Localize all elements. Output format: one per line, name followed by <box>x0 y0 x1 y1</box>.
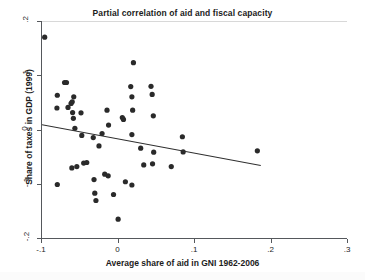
data-point <box>180 134 185 139</box>
data-point <box>71 94 76 99</box>
data-point <box>148 84 153 89</box>
y-axis-label: Share of taxes in GDP (1999) <box>24 42 34 212</box>
data-point <box>116 217 121 222</box>
y-tick-mark <box>37 130 41 131</box>
data-point <box>74 164 79 169</box>
y-tick-mark <box>37 184 41 185</box>
y-tick-label-text: -.2 <box>22 232 31 241</box>
data-point <box>151 113 156 118</box>
y-tick-mark <box>37 238 41 239</box>
x-tick-label: -.1 <box>36 245 45 254</box>
data-points-group <box>42 35 260 222</box>
regression-line <box>42 125 261 166</box>
y-tick-label: -.2 <box>22 232 31 241</box>
x-axis-label: Average share of aid in GNI 1962-2006 <box>0 258 365 268</box>
plot-area <box>41 21 347 238</box>
data-point <box>70 110 75 115</box>
data-point <box>138 146 143 151</box>
data-point <box>84 160 89 165</box>
y-tick-mark <box>37 75 41 76</box>
data-point <box>92 191 97 196</box>
data-point <box>131 60 136 65</box>
y-tick-label: .2 <box>22 15 29 24</box>
x-tick-label: .1 <box>191 245 198 254</box>
data-point <box>150 161 155 166</box>
data-point <box>129 132 134 137</box>
data-point <box>130 108 135 113</box>
data-point <box>128 84 133 89</box>
data-point <box>129 94 134 99</box>
data-point <box>106 122 111 127</box>
data-point <box>69 165 74 170</box>
data-point <box>150 92 155 97</box>
y-axis-line <box>41 21 42 239</box>
data-point <box>42 35 47 40</box>
scan-edge-strip <box>0 272 365 280</box>
data-point <box>64 80 69 85</box>
data-point <box>71 116 76 121</box>
chart-figure: Partial correlation of aid and fiscal ca… <box>0 0 365 280</box>
x-tick-mark <box>41 239 42 243</box>
data-point <box>255 148 260 153</box>
x-tick-mark <box>118 239 119 243</box>
x-tick-mark <box>194 239 195 243</box>
x-tick-mark <box>271 239 272 243</box>
data-point <box>96 143 101 148</box>
data-point <box>93 198 98 203</box>
chart-title: Partial correlation of aid and fiscal ca… <box>0 8 365 18</box>
data-point <box>111 192 116 197</box>
data-point <box>169 164 174 169</box>
scatter-plot-svg <box>42 22 348 239</box>
data-point <box>106 173 111 178</box>
y-tick-label-text: .2 <box>21 16 30 23</box>
x-tick-label: .3 <box>344 245 351 254</box>
data-point <box>91 135 96 140</box>
data-point <box>91 177 96 182</box>
data-point <box>55 182 60 187</box>
data-point <box>55 93 60 98</box>
data-point <box>129 182 134 187</box>
data-point <box>79 133 84 138</box>
data-point <box>104 108 109 113</box>
data-point <box>123 179 128 184</box>
x-tick-label: .2 <box>267 245 274 254</box>
data-point <box>78 110 83 115</box>
x-tick-label: 0 <box>115 245 119 254</box>
data-point <box>54 105 59 110</box>
data-point <box>151 150 156 155</box>
x-tick-mark <box>347 239 348 243</box>
y-tick-mark <box>37 21 41 22</box>
data-point <box>120 115 125 120</box>
data-point <box>141 162 146 167</box>
data-point <box>70 99 75 104</box>
